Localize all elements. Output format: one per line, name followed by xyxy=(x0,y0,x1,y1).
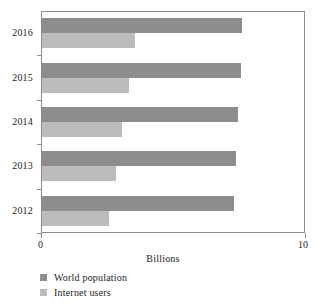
x-axis-title: Billions xyxy=(0,253,326,265)
bar-2012-internet-users xyxy=(42,211,304,226)
bar-fill xyxy=(42,122,122,137)
legend-swatch-world-population xyxy=(40,274,47,281)
legend-item-world-population: World population xyxy=(40,270,280,285)
y-tick-label-2015: 2015 xyxy=(12,73,33,83)
y-tick-mark xyxy=(37,189,41,190)
bar-fill xyxy=(42,78,129,93)
bar-2016-internet-users xyxy=(42,33,304,48)
bar-fill xyxy=(42,63,241,78)
x-tick-min xyxy=(41,233,42,238)
bar-chart-figure: 20162015201420132012 0 10 Billions World… xyxy=(0,0,326,305)
y-tick-label-2013: 2013 xyxy=(12,161,33,171)
bar-2013-world-population xyxy=(42,151,304,166)
plot-frame xyxy=(41,11,305,233)
y-tick-label-2016: 2016 xyxy=(12,28,33,38)
bar-2014-internet-users xyxy=(42,122,304,137)
x-tick-label-min: 0 xyxy=(38,239,43,250)
bar-2012-world-population xyxy=(42,196,304,211)
bar-fill xyxy=(42,18,242,33)
bar-fill xyxy=(42,196,234,211)
bar-fill xyxy=(42,151,236,166)
y-tick-label-2012: 2012 xyxy=(12,206,33,216)
plot-area xyxy=(42,12,304,232)
legend-label-world-population: World population xyxy=(54,272,127,283)
chart-legend: World population Internet users xyxy=(40,270,280,300)
bar-fill xyxy=(42,166,116,181)
y-tick-label-2014: 2014 xyxy=(12,117,33,127)
bar-2015-world-population xyxy=(42,63,304,78)
bar-2015-internet-users xyxy=(42,78,304,93)
bar-2013-internet-users xyxy=(42,166,304,181)
bar-fill xyxy=(42,211,109,226)
bar-2014-world-population xyxy=(42,107,304,122)
y-tick-mark xyxy=(37,55,41,56)
x-tick-max xyxy=(305,233,306,238)
legend-swatch-internet-users xyxy=(40,289,47,296)
y-tick-mark xyxy=(37,144,41,145)
y-tick-mark xyxy=(37,100,41,101)
bar-fill xyxy=(42,33,135,48)
legend-item-internet-users: Internet users xyxy=(40,285,280,300)
bar-fill xyxy=(42,107,238,122)
legend-label-internet-users: Internet users xyxy=(54,287,111,298)
bar-2016-world-population xyxy=(42,18,304,33)
x-tick-label-max: 10 xyxy=(298,239,308,250)
